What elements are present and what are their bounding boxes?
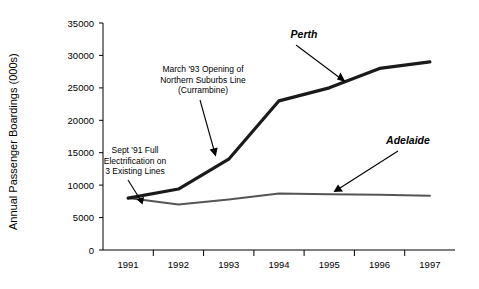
- x-tick-label-1991: 1991: [118, 259, 139, 270]
- y-tick-label: 35000: [68, 18, 94, 29]
- annotation-northern-suburbs-line1: March '93 Opening of: [162, 64, 244, 74]
- x-tick-label-1995: 1995: [319, 259, 340, 270]
- annotation-electrification-line2: Electrification on: [104, 156, 167, 166]
- y-tick-label: 30000: [68, 50, 94, 61]
- x-tick-label-1994: 1994: [268, 259, 289, 270]
- y-axis-title: Annual Passenger Boardings (000s): [7, 53, 19, 230]
- annotation-northern-suburbs-line2: Northern Suburbs Line: [160, 75, 246, 85]
- x-tick-label-1993: 1993: [218, 259, 239, 270]
- series-label-adelaide: Adelaide: [385, 134, 430, 146]
- y-tick-label: 0: [89, 245, 94, 256]
- y-tick-label: 20000: [68, 115, 94, 126]
- chart-figure: Annual Passenger Boardings (000s) 35000 …: [0, 0, 479, 289]
- y-tick-label: 10000: [68, 180, 94, 191]
- annotation-electrification-line3: 3 Existing Lines: [105, 166, 165, 176]
- y-tick-label: 5000: [73, 212, 94, 223]
- y-tick-label: 15000: [68, 147, 94, 158]
- line-chart-canvas: Annual Passenger Boardings (000s) 35000 …: [0, 0, 479, 289]
- x-tick-label-1992: 1992: [168, 259, 189, 270]
- y-tick-label: 25000: [68, 82, 94, 93]
- x-tick-label-1996: 1996: [369, 259, 390, 270]
- annotation-electrification-line1: Sept '91 Full: [112, 145, 159, 155]
- x-tick-label-1997: 1997: [419, 259, 440, 270]
- annotation-northern-suburbs-line3: (Currambine): [178, 85, 228, 95]
- series-label-perth: Perth: [291, 28, 318, 40]
